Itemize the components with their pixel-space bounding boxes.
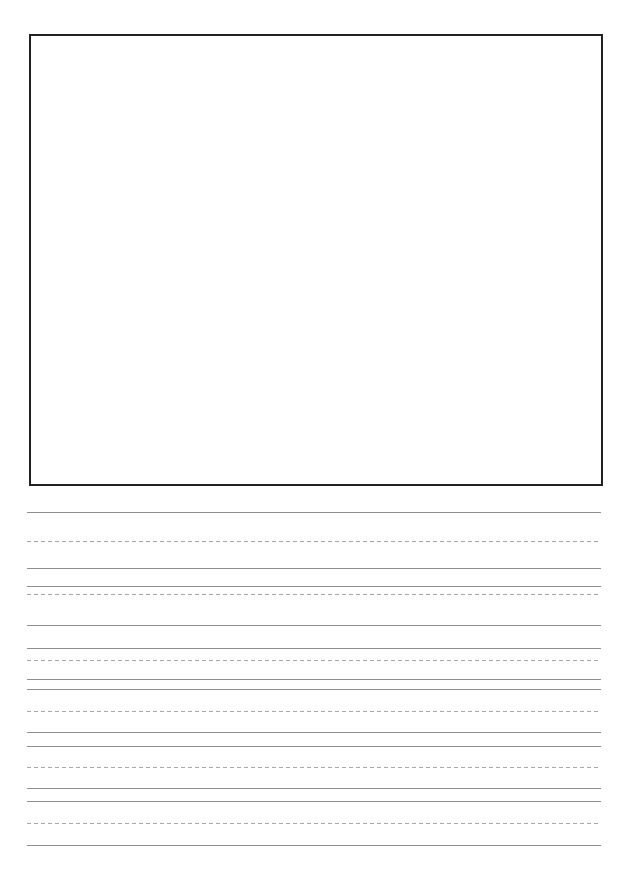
line-group-3-midline bbox=[27, 660, 601, 661]
worksheet-page bbox=[0, 0, 623, 878]
drawing-area[interactable] bbox=[29, 34, 603, 486]
line-group-5-baseline-top bbox=[27, 746, 601, 747]
line-group-5-midline bbox=[27, 767, 601, 768]
line-group-2-midline bbox=[27, 594, 601, 595]
line-group-3-baseline-bottom bbox=[27, 679, 601, 680]
line-group-1-baseline-top bbox=[27, 512, 601, 513]
line-group-6-midline bbox=[27, 823, 601, 824]
line-group-5-baseline-bottom bbox=[27, 788, 601, 789]
line-group-6-baseline-top bbox=[27, 801, 601, 802]
line-group-2-baseline-top bbox=[27, 586, 601, 587]
line-group-2-baseline-bottom bbox=[27, 625, 601, 626]
line-group-4-midline bbox=[27, 711, 601, 712]
line-group-6-baseline-bottom bbox=[27, 845, 601, 846]
line-group-1-midline bbox=[27, 541, 601, 542]
line-group-4-baseline-bottom bbox=[27, 732, 601, 733]
line-group-4-baseline-top bbox=[27, 689, 601, 690]
line-group-3-baseline-top bbox=[27, 648, 601, 649]
line-group-1-baseline-bottom bbox=[27, 568, 601, 569]
